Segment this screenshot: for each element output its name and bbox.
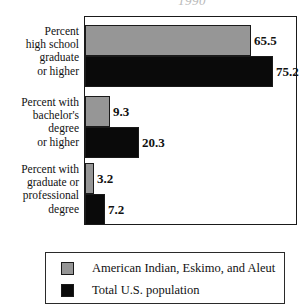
legend-label: Total U.S. population [92,283,199,298]
bar-pair-bachelors: 9.3 20.3 [85,96,139,158]
bar-value-label: 9.3 [113,104,129,120]
category-label-line: graduate or [0,176,79,189]
legend-label: American Indian, Eskimo, and Aleut [92,261,275,276]
category-label-graduate: Percent with graduate or professional de… [0,163,79,216]
category-label-line: bachelor's [0,109,79,122]
legend-item-total-us: Total U.S. population [61,283,199,298]
bar-value-label: 65.5 [254,33,277,49]
chart-legend: American Indian, Eskimo, and Aleut Total… [45,252,285,304]
bar-value-label: 20.3 [142,135,165,151]
bar-high-school-total-us: 75.2 [85,56,273,87]
bar-value-label: 7.2 [108,202,124,218]
bar-pair-graduate: 3.2 7.2 [85,163,105,225]
category-label-line: high school [0,38,79,51]
category-label-line: Percent with [0,96,79,109]
category-label-line: graduate [0,51,79,64]
category-label-line: Percent [0,25,79,38]
bar-graduate-american-indian: 3.2 [85,163,94,194]
category-label-line: or higher [0,136,79,149]
bar-pair-high-school: 65.5 75.2 [85,25,273,87]
category-label-bachelors: Percent with bachelor's degree or higher [0,96,79,149]
chart-title: 1990 [178,0,268,7]
bar-bachelors-total-us: 20.3 [85,127,139,158]
category-label-line: degree [0,122,79,135]
category-label-line: Percent with [0,163,79,176]
legend-swatch-black-icon [61,284,74,297]
bar-bachelors-american-indian: 9.3 [85,96,110,127]
bar-graduate-total-us: 7.2 [85,194,105,225]
bar-value-label: 3.2 [97,171,113,187]
legend-swatch-gray-icon [61,262,74,275]
category-label-line: degree [0,203,79,216]
legend-item-american-indian: American Indian, Eskimo, and Aleut [61,261,275,276]
category-label-high-school: Percent high school graduate or higher [0,25,79,78]
category-label-line: professional [0,189,79,202]
bar-high-school-american-indian: 65.5 [85,25,251,56]
bar-value-label: 75.2 [276,64,299,80]
category-label-line: or higher [0,65,79,78]
